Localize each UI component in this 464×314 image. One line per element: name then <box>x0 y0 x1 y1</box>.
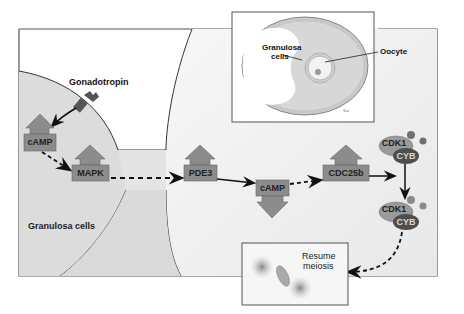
node-cyb-bottom-label: CYB <box>394 217 418 227</box>
resume-meiosis-label-line2: meiosis <box>303 261 334 271</box>
node-camp-granulosa-label: cAMP <box>24 137 56 147</box>
node-camp-oocyte-label: cAMP <box>256 183 289 193</box>
node-cdc25b-label: CDC25b <box>323 168 369 178</box>
node-cdk1-bottom-label: CDK1 <box>381 204 407 214</box>
gonadotropin-label: Gonadotropin <box>69 77 129 87</box>
resume-meiosis-label-line1: Resume <box>302 251 336 261</box>
node-cdk1-top-label: CDK1 <box>381 138 407 148</box>
granulosa-cells-label: Granulosa cells <box>28 221 95 231</box>
inset-granulosa-label-line1: Granulosa <box>262 43 302 52</box>
node-cyb-top-label: CYB <box>394 151 418 161</box>
follicle-inset: Sar <box>232 12 378 122</box>
transzonal-projection <box>118 150 166 190</box>
inset-granulosa-label-line2: cells <box>271 52 289 61</box>
svg-text:Sar: Sar <box>343 108 350 113</box>
node-mapk-label: MAPK <box>72 168 109 178</box>
inset-oocyte-label: Oocyte <box>380 47 407 56</box>
node-pde3-label: PDE3 <box>184 168 217 178</box>
